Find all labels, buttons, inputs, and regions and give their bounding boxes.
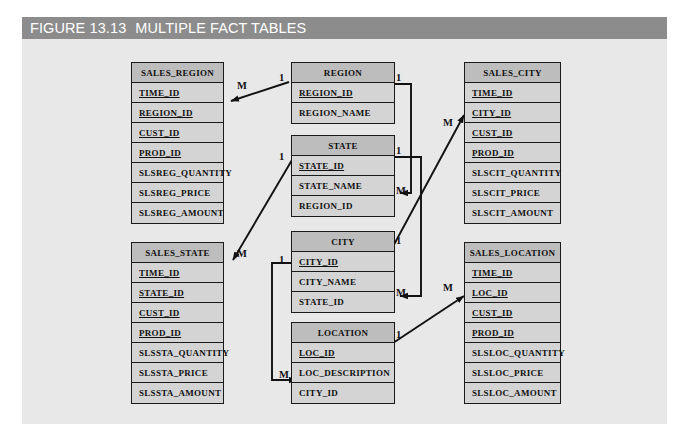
entity-sales-city[interactable]: SALES_CITY TIME_ID CITY_ID CUST_ID PROD_… [464, 62, 561, 224]
entity-attribute-row[interactable]: SLSREG_AMOUNT [132, 203, 223, 223]
cardinality-state-right-one: 1 [396, 146, 401, 157]
attribute-label: TIME_ID [139, 88, 180, 98]
link-region-state [395, 84, 411, 193]
entity-attribute-row[interactable]: CUST_ID [465, 123, 560, 143]
entity-location[interactable]: LOCATION LOC_ID LOC_DESCRIPTION CITY_ID [291, 322, 395, 404]
entity-attribute-row[interactable]: STATE_ID [132, 283, 223, 303]
attribute-label: CITY_ID [299, 257, 338, 267]
attribute-label: CITY_ID [299, 388, 338, 398]
attribute-label: SLSREG_QUANTITY [139, 168, 232, 178]
cardinality-sales-state-many: M [237, 249, 247, 260]
entity-attribute-row[interactable]: REGION_NAME [292, 103, 394, 123]
attribute-label: SLSCIT_QUANTITY [472, 168, 562, 178]
entity-attribute-row[interactable]: TIME_ID [465, 263, 560, 283]
entity-attribute-row[interactable]: SLSLOC_QUANTITY [465, 343, 560, 363]
entity-header: SALES_STATE [132, 243, 223, 263]
entity-attribute-row[interactable]: CUST_ID [465, 303, 560, 323]
entity-attribute-row[interactable]: CITY_ID [292, 383, 394, 403]
entity-attribute-row[interactable]: CUST_ID [132, 303, 223, 323]
attribute-label: SLSCIT_PRICE [472, 188, 540, 198]
entity-attribute-row[interactable]: REGION_ID [132, 103, 223, 123]
cardinality-state-left-one: 1 [279, 152, 284, 163]
entity-header: SALES_CITY [465, 63, 560, 83]
cardinality-city-left-one: 1 [279, 255, 284, 266]
attribute-label: REGION_NAME [299, 108, 371, 118]
link-state-salesstate [233, 160, 292, 260]
attribute-label: SLSREG_PRICE [139, 188, 211, 198]
entity-attribute-row[interactable]: LOC_ID [465, 283, 560, 303]
entity-attribute-row[interactable]: CITY_ID [465, 103, 560, 123]
entity-attribute-row[interactable]: SLSREG_QUANTITY [132, 163, 223, 183]
entity-attribute-row[interactable]: LOC_DESCRIPTION [292, 363, 394, 383]
attribute-label: CUST_ID [139, 308, 180, 318]
link-location-saleslocation [393, 296, 464, 343]
attribute-label: STATE_ID [139, 288, 184, 298]
attribute-label: SLSREG_AMOUNT [139, 208, 224, 218]
entity-header: SALES_LOCATION [465, 243, 560, 263]
attribute-label: STATE_NAME [299, 181, 362, 191]
entity-attribute-row[interactable]: PROD_ID [132, 143, 223, 163]
entity-attribute-row[interactable]: SLSSTA_QUANTITY [132, 343, 223, 363]
entity-attribute-row[interactable]: LOC_ID [292, 343, 394, 363]
attribute-label: LOC_DESCRIPTION [299, 368, 390, 378]
entity-attribute-row[interactable]: STATE_ID [292, 156, 394, 176]
cardinality-region-one: 1 [279, 73, 284, 84]
entity-attribute-row[interactable]: STATE_NAME [292, 176, 394, 196]
entity-attribute-row[interactable]: REGION_ID [292, 83, 394, 103]
entity-attribute-row[interactable]: CITY_NAME [292, 272, 394, 292]
attribute-label: CITY_NAME [299, 277, 356, 287]
attribute-label: LOC_ID [472, 288, 508, 298]
attribute-label: REGION_ID [139, 108, 193, 118]
entity-attribute-row[interactable]: SLSSTA_PRICE [132, 363, 223, 383]
entity-attribute-row[interactable]: SLSCIT_AMOUNT [465, 203, 560, 223]
entity-attribute-row[interactable]: PROD_ID [465, 143, 560, 163]
entity-attribute-row[interactable]: PROD_ID [465, 323, 560, 343]
cardinality-sales-location-many: M [443, 283, 453, 294]
entity-attribute-row[interactable]: TIME_ID [465, 83, 560, 103]
attribute-label: TIME_ID [139, 268, 180, 278]
link-city-salescity [390, 115, 464, 252]
entity-state[interactable]: STATE STATE_ID STATE_NAME REGION_ID [291, 135, 395, 217]
entity-attribute-row[interactable]: TIME_ID [132, 263, 223, 283]
entity-attribute-row[interactable]: SLSCIT_PRICE [465, 183, 560, 203]
entity-attribute-row[interactable]: SLSLOC_AMOUNT [465, 383, 560, 403]
entity-city[interactable]: CITY CITY_ID CITY_NAME STATE_ID [291, 231, 395, 313]
attribute-label: SLSLOC_QUANTITY [472, 348, 565, 358]
cardinality-city-state-many: M [396, 288, 406, 299]
entity-attribute-row[interactable]: REGION_ID [292, 196, 394, 216]
entity-attribute-row[interactable]: CUST_ID [132, 123, 223, 143]
figure-13-13: FIGURE 13.13MULTIPLE FACT TABLES [0, 0, 690, 444]
entity-sales-location[interactable]: SALES_LOCATION TIME_ID LOC_ID CUST_ID PR… [464, 242, 561, 404]
entity-header: REGION [292, 63, 394, 83]
cardinality-region-right-one: 1 [396, 73, 401, 84]
entity-attribute-row[interactable]: SLSCIT_QUANTITY [465, 163, 560, 183]
entity-attribute-row[interactable]: TIME_ID [132, 83, 223, 103]
cardinality-city-right-one: 1 [396, 236, 401, 247]
attribute-label: PROD_ID [472, 328, 514, 338]
entity-header: LOCATION [292, 323, 394, 343]
attribute-label: LOC_ID [299, 348, 335, 358]
attribute-label: PROD_ID [139, 148, 181, 158]
entity-attribute-row[interactable]: SLSLOC_PRICE [465, 363, 560, 383]
entity-attribute-row[interactable]: STATE_ID [292, 292, 394, 312]
entity-sales-region[interactable]: SALES_REGION TIME_ID REGION_ID CUST_ID P… [131, 62, 224, 224]
cardinality-sales-city-many: M [443, 118, 453, 129]
entity-attribute-row[interactable]: SLSREG_PRICE [132, 183, 223, 203]
attribute-label: SLSCIT_AMOUNT [472, 208, 553, 218]
attribute-label: CUST_ID [472, 128, 513, 138]
cardinality-region-to-sales-region-many: M [237, 81, 247, 92]
entity-attribute-row[interactable]: SLSSTA_AMOUNT [132, 383, 223, 403]
attribute-label: PROD_ID [139, 328, 181, 338]
entity-attribute-row[interactable]: CITY_ID [292, 252, 394, 272]
entity-header: SALES_REGION [132, 63, 223, 83]
attribute-label: REGION_ID [299, 88, 353, 98]
entity-region[interactable]: REGION REGION_ID REGION_NAME [291, 62, 395, 124]
entity-attribute-row[interactable]: PROD_ID [132, 323, 223, 343]
attribute-label: SLSSTA_PRICE [139, 368, 208, 378]
attribute-label: PROD_ID [472, 148, 514, 158]
attribute-label: STATE_ID [299, 161, 344, 171]
entity-header: CITY [292, 232, 394, 252]
attribute-label: SLSSTA_AMOUNT [139, 388, 221, 398]
attribute-label: TIME_ID [472, 268, 513, 278]
entity-sales-state[interactable]: SALES_STATE TIME_ID STATE_ID CUST_ID PRO… [131, 242, 224, 404]
